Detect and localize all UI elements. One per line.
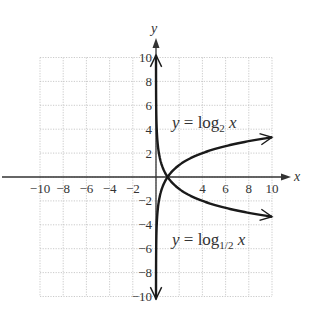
y-tick-label: 10: [139, 50, 152, 65]
y-axis-arrow-icon: [153, 38, 160, 48]
curve-log2: [156, 137, 272, 299]
curve-log-half: [156, 55, 272, 217]
log-graph: x y −10−8−6−4−246810 108642−2−4−6−8−10 y…: [0, 0, 314, 316]
y-tick-label: −10: [132, 289, 152, 304]
y-tick-label: −2: [138, 193, 152, 208]
x-tick-label: −4: [103, 181, 117, 196]
log-half-equation-label: y = log1/2 x: [170, 230, 246, 251]
y-axis-label: y: [149, 21, 158, 36]
x-tick-label: 8: [246, 181, 253, 196]
y-tick-label: 4: [146, 122, 153, 137]
x-tick-label: −10: [30, 181, 50, 196]
x-tick-label: −6: [79, 181, 93, 196]
y-tick-label: 2: [146, 146, 153, 161]
x-tick-label: 4: [199, 181, 206, 196]
y-tick-label: 8: [146, 74, 153, 89]
x-tick-label: 6: [222, 181, 229, 196]
log2-equation-label: y = log2 x: [170, 113, 237, 134]
y-tick-label: 6: [146, 98, 153, 113]
y-tick-label: −4: [138, 217, 152, 232]
x-axis-arrow-icon: [281, 174, 291, 181]
x-axis-label: x: [293, 169, 301, 184]
x-tick-labels: −10−8−6−4−246810: [30, 181, 279, 196]
x-tick-label: −8: [56, 181, 70, 196]
x-tick-label: 10: [266, 181, 279, 196]
y-tick-label: −8: [138, 265, 152, 280]
y-tick-label: −6: [138, 241, 152, 256]
